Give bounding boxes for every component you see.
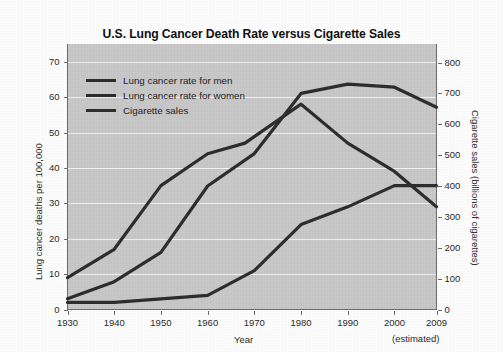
- series-lines: [0, 0, 503, 352]
- legend-swatch-women: [86, 94, 116, 97]
- chart-figure: U.S. Lung Cancer Death Rate versus Cigar…: [0, 0, 503, 352]
- legend-item-men: Lung cancer rate for men: [86, 73, 245, 88]
- legend-item-cigarette-sales: Cigarette sales: [86, 103, 245, 118]
- legend-swatch-cigarette-sales: [86, 109, 116, 112]
- legend-label-cigarette-sales: Cigarette sales: [123, 105, 188, 116]
- legend-item-women: Lung cancer rate for women: [86, 88, 245, 103]
- line-lung-cancer-women: [68, 186, 437, 303]
- chart-legend: Lung cancer rate for men Lung cancer rat…: [86, 73, 245, 118]
- legend-label-men: Lung cancer rate for men: [123, 75, 232, 86]
- legend-swatch-men: [86, 79, 116, 82]
- legend-label-women: Lung cancer rate for women: [123, 90, 245, 101]
